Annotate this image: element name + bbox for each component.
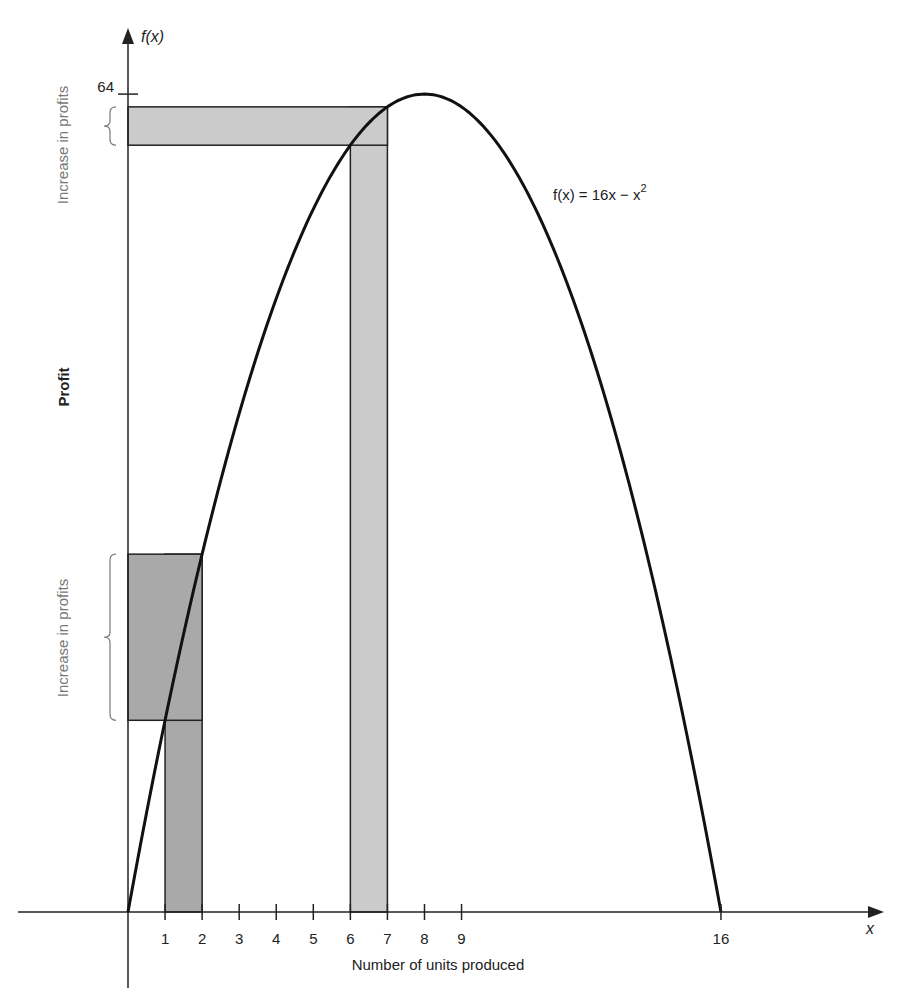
highlight-band-horizontal-low-output [128, 554, 202, 720]
x-axis-label: Number of units produced [352, 956, 525, 973]
x-tick-label-6: 6 [346, 930, 354, 947]
x-axis-arrow [868, 906, 884, 918]
x-tick-label-1: 1 [161, 930, 169, 947]
highlight-band-vertical-high-output [350, 107, 387, 912]
y-axis-label: Profit [55, 367, 72, 406]
x-tick-label-2: 2 [198, 930, 206, 947]
x-tick-label-4: 4 [272, 930, 280, 947]
y-axis-arrow [122, 28, 134, 44]
brace-high-output [104, 107, 116, 145]
x-axis-name: x [865, 920, 875, 937]
x-tick-label-8: 8 [420, 930, 428, 947]
x-tick-label-3: 3 [235, 930, 243, 947]
brace-low-output [104, 554, 116, 720]
x-tick-label-16: 16 [713, 930, 730, 947]
function-label: f(x) = 16x − x2 [553, 182, 647, 203]
chart: 1234567891664 f(x) x Number of units pro… [0, 0, 904, 1004]
y-tick-label-64: 64 [97, 78, 114, 95]
x-tick-label-7: 7 [383, 930, 391, 947]
highlight-band-horizontal-high-output [128, 107, 387, 145]
annotation-low-output: Increase in profits [54, 579, 71, 697]
function-label-exponent: 2 [641, 182, 647, 194]
function-label-main: f(x) = 16x − x [553, 186, 641, 203]
y-axis-name: f(x) [141, 28, 164, 45]
annotation-high-output: Increase in profits [54, 86, 71, 204]
x-tick-label-9: 9 [457, 930, 465, 947]
x-tick-label-5: 5 [309, 930, 317, 947]
series-line [128, 94, 721, 912]
